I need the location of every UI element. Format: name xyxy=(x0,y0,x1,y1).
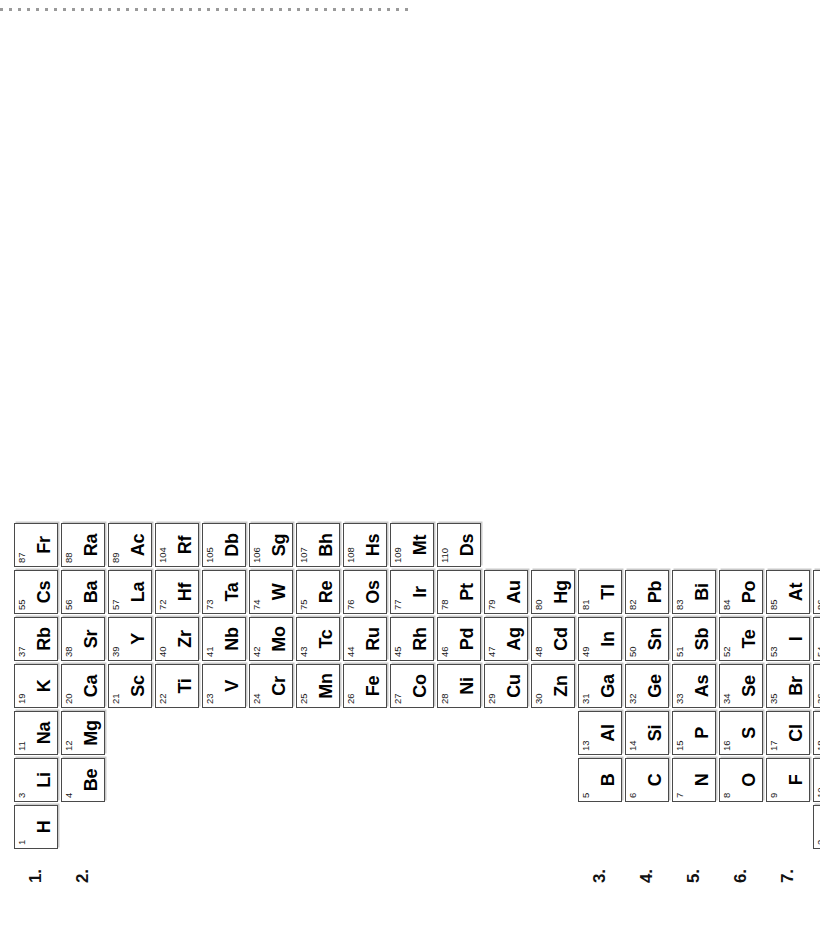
element-cell-fr[interactable]: 87Fr xyxy=(14,523,58,567)
element-cell-cr[interactable]: 24Cr xyxy=(249,664,293,708)
element-cell-cu[interactable]: 29Cu xyxy=(484,664,528,708)
element-cell-br[interactable]: 35Br xyxy=(766,664,810,708)
element-symbol: N xyxy=(692,759,712,801)
element-cell-pb[interactable]: 82Pb xyxy=(625,570,669,614)
element-cell-be[interactable]: 4Be xyxy=(61,758,105,802)
element-cell-y[interactable]: 39Y xyxy=(108,617,152,661)
element-cell-i[interactable]: 53I xyxy=(766,617,810,661)
element-cell-s[interactable]: 16S xyxy=(719,711,763,755)
element-cell-cs[interactable]: 55Cs xyxy=(14,570,58,614)
element-symbol: K xyxy=(34,665,54,707)
element-cell-cl[interactable]: 17Cl xyxy=(766,711,810,755)
element-cell-hg[interactable]: 80Hg xyxy=(531,570,575,614)
atomic-number: 77 xyxy=(392,599,403,610)
element-cell-ga[interactable]: 31Ga xyxy=(578,664,622,708)
element-cell-at[interactable]: 85At xyxy=(766,570,810,614)
top-dotted-rule xyxy=(0,8,410,11)
element-cell-rb[interactable]: 37Rb xyxy=(14,617,58,661)
element-symbol: Li xyxy=(34,759,54,801)
element-cell-hf[interactable]: 72Hf xyxy=(155,570,199,614)
element-cell-la[interactable]: 57La xyxy=(108,570,152,614)
atomic-number: 6 xyxy=(627,792,638,797)
element-cell-mt[interactable]: 109Mt xyxy=(390,523,434,567)
atomic-number: 48 xyxy=(533,646,544,657)
element-cell-os[interactable]: 76Os xyxy=(343,570,387,614)
element-cell-re[interactable]: 75Re xyxy=(296,570,340,614)
element-cell-mg[interactable]: 12Mg xyxy=(61,711,105,755)
element-cell-p[interactable]: 15P xyxy=(672,711,716,755)
element-symbol: B xyxy=(598,759,618,801)
element-cell-as[interactable]: 33As xyxy=(672,664,716,708)
element-cell-ar[interactable]: 18Ar xyxy=(813,711,820,755)
element-cell-sc[interactable]: 21Sc xyxy=(108,664,152,708)
element-cell-mn[interactable]: 25Mn xyxy=(296,664,340,708)
element-cell-c[interactable]: 6C xyxy=(625,758,669,802)
element-cell-mo[interactable]: 42Mo xyxy=(249,617,293,661)
group-label-6: 6. xyxy=(726,861,756,891)
element-cell-ac[interactable]: 89Ac xyxy=(108,523,152,567)
atomic-number: 21 xyxy=(110,693,121,704)
element-cell-sn[interactable]: 50Sn xyxy=(625,617,669,661)
element-cell-al[interactable]: 13Al xyxy=(578,711,622,755)
element-symbol: As xyxy=(692,665,712,707)
element-cell-he[interactable]: 2He xyxy=(813,805,820,849)
element-cell-w[interactable]: 74W xyxy=(249,570,293,614)
element-cell-sg[interactable]: 106Sg xyxy=(249,523,293,567)
element-cell-rh[interactable]: 45Rh xyxy=(390,617,434,661)
element-cell-tc[interactable]: 43Tc xyxy=(296,617,340,661)
element-cell-pd[interactable]: 46Pd xyxy=(437,617,481,661)
element-cell-ti[interactable]: 22Ti xyxy=(155,664,199,708)
element-cell-o[interactable]: 8O xyxy=(719,758,763,802)
element-cell-co[interactable]: 27Co xyxy=(390,664,434,708)
element-cell-f[interactable]: 9F xyxy=(766,758,810,802)
element-cell-bh[interactable]: 107Bh xyxy=(296,523,340,567)
element-symbol: At xyxy=(786,571,806,613)
element-cell-b[interactable]: 5B xyxy=(578,758,622,802)
element-symbol: La xyxy=(128,571,148,613)
element-cell-tl[interactable]: 81Tl xyxy=(578,570,622,614)
element-cell-ge[interactable]: 32Ge xyxy=(625,664,669,708)
element-cell-si[interactable]: 14Si xyxy=(625,711,669,755)
element-cell-na[interactable]: 11Na xyxy=(14,711,58,755)
element-cell-ir[interactable]: 77Ir xyxy=(390,570,434,614)
element-cell-in[interactable]: 49In xyxy=(578,617,622,661)
element-cell-zn[interactable]: 30Zn xyxy=(531,664,575,708)
element-cell-n[interactable]: 7N xyxy=(672,758,716,802)
element-cell-hs[interactable]: 108Hs xyxy=(343,523,387,567)
element-cell-pt[interactable]: 78Pt xyxy=(437,570,481,614)
atomic-number: 73 xyxy=(204,599,215,610)
element-cell-sb[interactable]: 51Sb xyxy=(672,617,716,661)
element-cell-li[interactable]: 3Li xyxy=(14,758,58,802)
element-cell-v[interactable]: 23V xyxy=(202,664,246,708)
atomic-number: 10 xyxy=(815,787,820,798)
element-cell-ra[interactable]: 88Ra xyxy=(61,523,105,567)
element-cell-fe[interactable]: 26Fe xyxy=(343,664,387,708)
element-cell-au[interactable]: 79Au xyxy=(484,570,528,614)
element-cell-se[interactable]: 34Se xyxy=(719,664,763,708)
element-cell-kr[interactable]: 36Kr xyxy=(813,664,820,708)
group-label-1: 1. xyxy=(21,861,51,891)
element-cell-db[interactable]: 105Db xyxy=(202,523,246,567)
element-cell-po[interactable]: 84Po xyxy=(719,570,763,614)
element-cell-cd[interactable]: 48Cd xyxy=(531,617,575,661)
element-cell-ds[interactable]: 110Ds xyxy=(437,523,481,567)
element-cell-k[interactable]: 19K xyxy=(14,664,58,708)
element-cell-te[interactable]: 52Te xyxy=(719,617,763,661)
element-cell-bi[interactable]: 83Bi xyxy=(672,570,716,614)
element-cell-nb[interactable]: 41Nb xyxy=(202,617,246,661)
element-cell-zr[interactable]: 40Zr xyxy=(155,617,199,661)
element-symbol: Po xyxy=(739,571,759,613)
element-cell-h[interactable]: 1H xyxy=(14,805,58,849)
element-cell-ru[interactable]: 44Ru xyxy=(343,617,387,661)
element-cell-ba[interactable]: 56Ba xyxy=(61,570,105,614)
element-cell-ca[interactable]: 20Ca xyxy=(61,664,105,708)
element-cell-sr[interactable]: 38Sr xyxy=(61,617,105,661)
element-cell-rf[interactable]: 104Rf xyxy=(155,523,199,567)
element-cell-ag[interactable]: 47Ag xyxy=(484,617,528,661)
element-cell-ta[interactable]: 73Ta xyxy=(202,570,246,614)
atomic-number: 81 xyxy=(580,599,591,610)
element-cell-ni[interactable]: 28Ni xyxy=(437,664,481,708)
element-cell-xe[interactable]: 54Xe xyxy=(813,617,820,661)
element-cell-rn[interactable]: 86Rn xyxy=(813,570,820,614)
element-cell-ne[interactable]: 10Ne xyxy=(813,758,820,802)
